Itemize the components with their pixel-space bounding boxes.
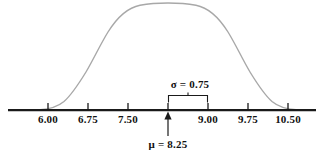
sigma-bracket: [169, 93, 208, 103]
axis-tick-marks: [48, 103, 288, 110]
sigma-annotation-label: σ = 0.75: [171, 78, 210, 90]
normal-curve: [40, 3, 296, 110]
mu-annotation-label: μ = 8.25: [149, 138, 188, 150]
distribution-plot: [0, 0, 324, 161]
normal-distribution-figure: 6.00 6.75 7.50 9.00 9.75 10.50 σ = 0.75 …: [0, 0, 324, 161]
tick-label-9-75: 9.75: [238, 113, 258, 125]
tick-label-9-00: 9.00: [198, 113, 218, 125]
tick-label-10-50: 10.50: [275, 113, 301, 125]
mu-arrow-icon: [164, 112, 171, 137]
tick-label-6-75: 6.75: [78, 113, 98, 125]
tick-label-6-00: 6.00: [38, 113, 58, 125]
tick-label-7-50: 7.50: [118, 113, 138, 125]
